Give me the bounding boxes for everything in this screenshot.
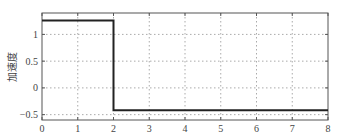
y-axis-label: 加速度 — [6, 52, 18, 82]
y-tick-label: 0 — [33, 82, 38, 93]
y-tick-label: 1 — [33, 29, 38, 40]
y-tick-label: −0.5 — [20, 109, 38, 120]
x-tick-label: 1 — [75, 123, 80, 134]
grid-lines — [42, 13, 328, 120]
x-tick-label: 0 — [40, 123, 45, 134]
acceleration-chart: 012345678−0.500.51 加速度 — [0, 0, 338, 139]
x-tick-label: 7 — [290, 123, 295, 134]
x-tick-label: 3 — [147, 123, 152, 134]
axis-ticks: 012345678−0.500.51 — [20, 13, 331, 134]
y-tick-label: 0.5 — [26, 56, 39, 67]
x-tick-label: 2 — [111, 123, 116, 134]
x-tick-label: 6 — [254, 123, 259, 134]
x-tick-label: 5 — [218, 123, 223, 134]
x-tick-label: 8 — [326, 123, 331, 134]
x-tick-label: 4 — [183, 123, 188, 134]
